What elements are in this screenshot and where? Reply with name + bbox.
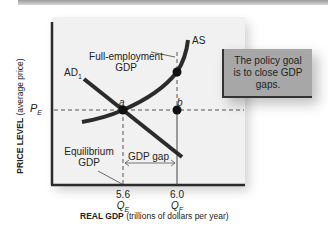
qe-tick-value: 5.6 [110,189,136,200]
equilibrium-leader [98,171,122,184]
gdp-gap-label: GDP gap [128,151,169,162]
price-level-label: PE [30,103,42,118]
as-curve-label: AS [192,35,205,46]
full-employment-point [173,68,182,77]
point-a-label: a [119,97,125,108]
y-axis-label: PRICE LEVEL (average price) [15,58,25,173]
policy-note-box: The policy goal is to close GDP gaps. [222,49,312,98]
x-axis-label: REAL GDP (trillions of dollars per year) [80,211,229,221]
qf-tick-value: 6.0 [164,189,190,200]
ad-curve-label: AD1 [64,67,82,82]
point-b-label: b [177,97,183,108]
policy-note-text: The policy goal is to close GDP gaps. [231,55,305,91]
full-employment-label: Full-employment GDP [86,51,166,73]
equilibrium-label: Equilibrium GDP [61,146,117,168]
